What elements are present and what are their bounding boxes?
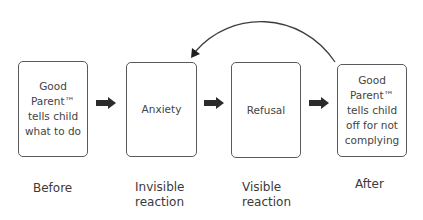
arrow-right-icon [309,97,329,109]
box-after: Good Parent™ tells child off for not com… [337,64,407,157]
label-after: After [355,177,384,192]
arrow-right-icon [204,97,224,109]
box-before-text: Good Parent™ tells child what to do [25,79,81,139]
label-before: Before [33,181,72,196]
label-visible-reaction: Visible reaction [242,180,291,210]
box-visible-reaction: Refusal [231,62,301,158]
arrow-right-icon [96,97,116,109]
box-before: Good Parent™ tells child what to do [18,61,88,157]
box-refusal-text: Refusal [247,103,285,118]
label-invisible-reaction: Invisible reaction [135,180,185,210]
box-after-text: Good Parent™ tells child off for not com… [345,73,399,148]
box-invisible-reaction: Anxiety [126,62,197,157]
box-anxiety-text: Anxiety [142,102,182,117]
